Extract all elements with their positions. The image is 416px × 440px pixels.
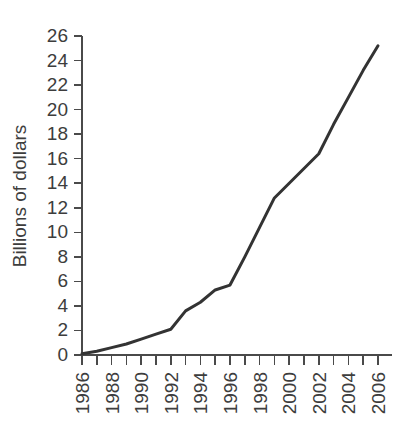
x-tick-label: 1992 [161, 372, 182, 414]
y-tick-label: 8 [57, 246, 68, 267]
y-axis-title: Billions of dollars [9, 125, 30, 268]
x-tick-label: 1986 [72, 372, 93, 414]
x-tick-label: 2000 [279, 372, 300, 414]
x-tick-label: 2002 [309, 372, 330, 414]
y-tick-label: 26 [47, 25, 68, 46]
x-tick-label: 2006 [368, 372, 389, 414]
y-tick-label: 18 [47, 123, 68, 144]
y-tick-label: 4 [57, 295, 68, 316]
x-tick-label: 1988 [102, 372, 123, 414]
y-tick-label: 14 [47, 172, 69, 193]
y-tick-label: 10 [47, 221, 68, 242]
y-tick-label: 20 [47, 99, 68, 120]
y-tick-label: 16 [47, 148, 68, 169]
y-tick-label: 12 [47, 197, 68, 218]
x-tick-label: 1990 [131, 372, 152, 414]
chart-figure: 02468101214161820222426 1986198819901992… [0, 0, 416, 440]
y-tick-label: 2 [57, 319, 68, 340]
x-tick-label: 1998 [250, 372, 271, 414]
x-axis-ticks [82, 355, 378, 365]
y-tick-label: 22 [47, 74, 68, 95]
y-tick-label: 0 [57, 344, 68, 365]
x-axis-tick-labels: 1986198819901992199419961998200020022004… [72, 372, 389, 415]
x-tick-label: 1994 [190, 372, 211, 415]
x-tick-label: 1996 [220, 372, 241, 414]
y-tick-label: 24 [47, 50, 69, 71]
line-chart: 02468101214161820222426 1986198819901992… [0, 0, 416, 440]
x-tick-label: 2004 [338, 372, 359, 415]
y-tick-label: 6 [57, 270, 68, 291]
